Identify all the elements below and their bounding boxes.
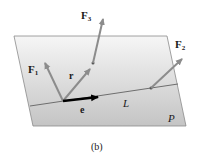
label-e: e [80, 104, 85, 115]
plane-p [14, 36, 186, 126]
label-f3: F3 [81, 9, 92, 23]
label-f2: F2 [175, 38, 186, 52]
label-r: r [69, 70, 74, 81]
label-l: L [122, 97, 129, 109]
moment-about-axis-diagram: F3 F1 r F2 e L P (b) [0, 0, 197, 158]
caption: (b) [91, 141, 103, 153]
label-p: P [167, 112, 175, 124]
